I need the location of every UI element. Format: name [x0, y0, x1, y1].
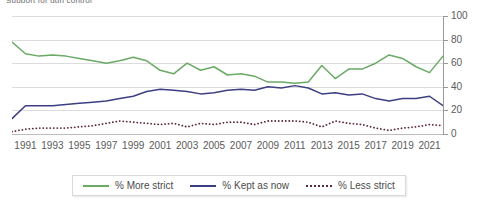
x-tick-label-1995: 1995 [68, 140, 90, 152]
x-tick-label-2011: 2011 [284, 140, 306, 152]
x-tick-label-2015: 2015 [338, 140, 360, 152]
x-tick-label-1993: 1993 [41, 140, 63, 152]
y-tick-label-0: 0 [451, 129, 457, 139]
y-tick-label-40: 40 [451, 82, 462, 92]
y-tick-40 [443, 87, 448, 88]
y-tick-label-100: 100 [451, 11, 468, 21]
legend-label: % Kept as now [222, 180, 289, 191]
x-tick-label-2021: 2021 [418, 140, 440, 152]
legend-swatch-icon [83, 181, 109, 190]
legend-item-2[interactable]: % Less strict [306, 180, 395, 191]
chart-title-clipped: Support for gun control [6, 0, 92, 3]
gridline-0 [12, 134, 443, 135]
legend-label: % More strict [115, 180, 173, 191]
x-tick-label-1999: 1999 [122, 140, 144, 152]
series-line-0 [12, 42, 443, 83]
x-tick-label-2007: 2007 [230, 140, 252, 152]
y-axis-spine [443, 16, 444, 134]
x-tick-label-1997: 1997 [95, 140, 117, 152]
y-tick-label-60: 60 [451, 58, 462, 68]
legend-swatch-icon [190, 181, 216, 190]
y-tick-label-80: 80 [451, 35, 462, 45]
y-tick-20 [443, 110, 448, 111]
y-axis: 100806040200 [443, 16, 479, 134]
y-tick-label-20: 20 [451, 105, 462, 115]
series-line-2 [12, 121, 443, 132]
chart-legend: % More strict% Kept as now% Less strict [72, 175, 406, 196]
series-lines [12, 16, 443, 134]
y-tick-100 [443, 16, 448, 17]
x-tick-label-2003: 2003 [176, 140, 198, 152]
x-tick-label-1991: 1991 [14, 140, 36, 152]
x-tick-label-2019: 2019 [391, 140, 413, 152]
chart-figure: Support for gun control 100806040200 199… [0, 0, 480, 206]
y-tick-60 [443, 63, 448, 64]
y-tick-80 [443, 40, 448, 41]
legend-item-1[interactable]: % Kept as now [190, 180, 289, 191]
series-line-1 [12, 86, 443, 119]
x-tick-label-2017: 2017 [365, 140, 387, 152]
x-tick-label-2001: 2001 [149, 140, 171, 152]
x-tick-label-2013: 2013 [311, 140, 333, 152]
y-tick-0 [443, 134, 448, 135]
plot-area [12, 16, 443, 134]
x-tick-label-2009: 2009 [257, 140, 279, 152]
legend-swatch-icon [306, 181, 332, 190]
x-axis: 1991199319951997199920012003200520072009… [12, 140, 443, 154]
legend-item-0[interactable]: % More strict [83, 180, 173, 191]
legend-label: % Less strict [338, 180, 395, 191]
x-tick-label-2005: 2005 [203, 140, 225, 152]
